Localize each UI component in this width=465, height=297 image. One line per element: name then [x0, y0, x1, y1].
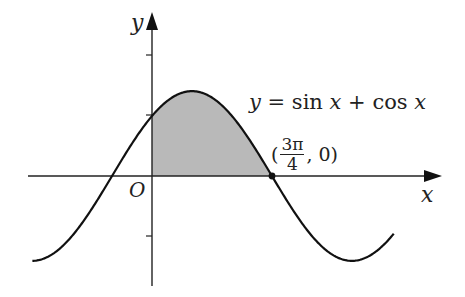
y-axis-arrow-icon — [146, 12, 158, 30]
eq-sign: = — [268, 90, 286, 114]
point-open-paren: ( — [271, 145, 278, 164]
eq-x2: x — [414, 90, 426, 114]
point-fraction: 3π 4 — [280, 136, 304, 173]
x-axis-arrow-icon — [424, 170, 442, 182]
fraction-denominator: 4 — [287, 155, 298, 173]
eq-cos: cos — [372, 90, 407, 114]
x-axis-label: x — [421, 184, 433, 206]
eq-lhs: y — [249, 90, 261, 114]
zero-point-marker — [269, 173, 276, 180]
function-graph: y x O y = sin x + cos x ( 3π 4 , 0) — [0, 0, 465, 297]
origin-label: O — [129, 180, 145, 200]
fraction-numerator: 3π — [280, 136, 304, 155]
y-axis-label: y — [131, 12, 143, 34]
eq-plus: + — [348, 90, 366, 114]
point-rest: , 0) — [306, 145, 338, 164]
eq-sin: sin — [292, 90, 323, 114]
plot-canvas — [0, 0, 465, 297]
equation-label: y = sin x + cos x — [249, 92, 426, 113]
point-label: ( 3π 4 , 0) — [271, 136, 338, 173]
eq-x1: x — [330, 90, 342, 114]
